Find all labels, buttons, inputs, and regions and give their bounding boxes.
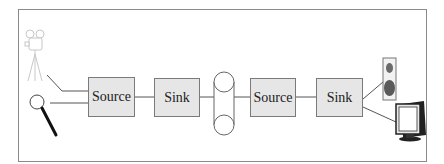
- edge-sink-speaker: [363, 82, 383, 99]
- monitor-icon: [396, 101, 426, 142]
- sink-label-2: Sink: [327, 90, 353, 106]
- source-label-2: Source: [254, 90, 293, 106]
- magnifying-glass-icon: [30, 95, 56, 135]
- pipeline-diagram: Source Sink Source Sink: [0, 0, 444, 164]
- edge-camera-source: [47, 75, 88, 91]
- source-box-2: Source: [250, 78, 296, 117]
- source-box-1: Source: [88, 77, 135, 117]
- sink-box-2: Sink: [316, 78, 363, 117]
- video-camera-icon: [25, 30, 44, 81]
- source-label-1: Source: [92, 89, 131, 105]
- sink-box-1: Sink: [154, 78, 200, 117]
- sink-label-1: Sink: [164, 90, 190, 106]
- connector-layer: [0, 0, 444, 164]
- tape-reel-icon: [214, 72, 234, 135]
- edge-sink-monitor: [363, 107, 396, 122]
- speaker-icon: [383, 58, 396, 100]
